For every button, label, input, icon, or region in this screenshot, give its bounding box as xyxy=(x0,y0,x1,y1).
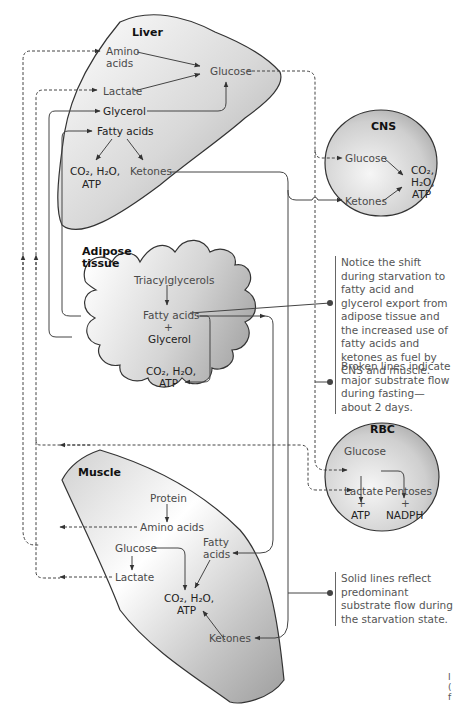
cutoff-text-3: f xyxy=(448,692,451,702)
note-broken-lines: Broken lines indicate major substrate fl… xyxy=(335,360,453,414)
muscle-ketones: Ketones xyxy=(209,632,251,644)
adipose-atp: ATP xyxy=(159,377,178,389)
muscle-lactate: Lactate xyxy=(115,571,154,583)
rbc-glucose: Glucose xyxy=(344,445,386,457)
cns-glucose: Glucose xyxy=(345,152,387,164)
rbc-nadph: NADPH xyxy=(386,509,423,521)
adipose-plus: + xyxy=(164,321,173,333)
cns-h2o: H₂O, xyxy=(411,176,435,188)
cns-ketones: Ketones xyxy=(345,195,387,207)
adipose-glycerol: Glycerol xyxy=(148,333,191,345)
liver-co2-h2o: CO₂, H₂O, xyxy=(70,165,120,177)
liver-lactate: Lactate xyxy=(103,85,142,97)
muscle-protein: Protein xyxy=(150,492,187,504)
muscle-atp: ATP xyxy=(177,604,196,616)
liver-amino-acids-line2: acids xyxy=(106,57,133,69)
muscle-glucose: Glucose xyxy=(115,542,157,554)
adipose-fatty-acids: Fatty acids xyxy=(143,309,200,321)
liver-glucose: Glucose xyxy=(210,65,252,77)
cutoff-text-2: ( xyxy=(448,682,452,692)
muscle-title: Muscle xyxy=(78,466,121,479)
liver-glycerol: Glycerol xyxy=(103,105,146,117)
adipose-title-line2: tissue xyxy=(82,257,119,270)
adipose-co2-h2o: CO₂, H₂O, xyxy=(146,365,196,377)
rbc-title: RBC xyxy=(370,423,395,436)
cns-atp: ATP xyxy=(412,188,431,200)
muscle-fatty-line2: acids xyxy=(203,548,230,560)
liver-atp: ATP xyxy=(82,178,101,190)
liver-ketones: Ketones xyxy=(130,165,172,177)
cns-title: CNS xyxy=(371,120,396,133)
rbc-atp: ATP xyxy=(351,509,370,521)
rbc-plus-1: + xyxy=(357,497,366,509)
muscle-shape xyxy=(62,450,284,703)
liver-shape xyxy=(58,15,281,230)
muscle-fatty-line1: Fatty xyxy=(203,536,229,548)
rbc-lactate: Lactate xyxy=(344,485,383,497)
rbc-pentoses: Pentoses xyxy=(385,485,432,497)
cns-co2: CO₂, xyxy=(411,164,434,176)
muscle-amino-acids: Amino acids xyxy=(140,521,204,533)
note-solid-lines: Solid lines reflect predominant substrat… xyxy=(335,572,453,626)
muscle-co2-h2o: CO₂, H₂O, xyxy=(164,592,214,604)
cutoff-text-1: I xyxy=(448,672,451,682)
liver-fatty-acids: Fatty acids xyxy=(97,125,154,137)
rbc-plus-2: + xyxy=(401,497,410,509)
liver-title: Liver xyxy=(132,26,163,39)
liver-amino-acids-line1: Amino xyxy=(106,45,139,57)
adipose-triacylglycerols: Triacylglycerols xyxy=(134,274,214,286)
